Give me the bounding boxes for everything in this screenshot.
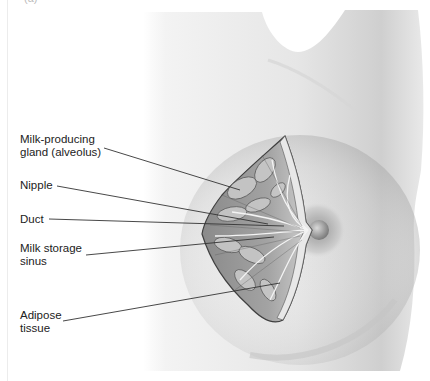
label-nipple: Nipple — [20, 179, 53, 192]
label-adipose-tissue: Adipose tissue — [20, 309, 62, 335]
breast-anatomy-illustration — [0, 0, 430, 381]
label-duct: Duct — [20, 213, 44, 226]
label-milk-producing-gland: Milk-producing gland (alveolus) — [20, 133, 101, 159]
label-milk-storage-sinus: Milk storage sinus — [20, 242, 82, 268]
